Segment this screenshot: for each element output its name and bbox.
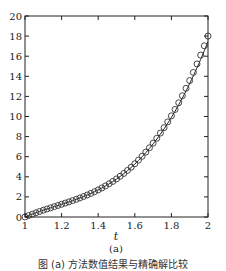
chart: 11.21.41.61.8202468101214161820 t (a) bbox=[0, 0, 226, 256]
x-tick-label: 1.8 bbox=[163, 220, 179, 231]
y-tick-label: 14 bbox=[9, 71, 22, 82]
x-tick-label: 1.2 bbox=[54, 220, 70, 231]
x-tick-label: 2 bbox=[205, 220, 211, 231]
y-tick-label: 18 bbox=[9, 31, 22, 42]
y-tick-label: 12 bbox=[9, 91, 22, 102]
y-tick-label: 8 bbox=[16, 131, 22, 142]
figure-caption: 图 (a) 方法数值结果与精确解比较 bbox=[0, 256, 226, 271]
y-tick-label: 6 bbox=[16, 151, 22, 162]
y-tick-label: 10 bbox=[9, 111, 22, 122]
x-tick-label: 1.4 bbox=[90, 220, 106, 231]
numerical-solution-marker bbox=[157, 130, 163, 136]
subfigure-label: (a) bbox=[109, 243, 123, 254]
y-tick-label: 16 bbox=[9, 51, 22, 62]
x-tick-label: 1 bbox=[22, 220, 28, 231]
axes bbox=[25, 16, 208, 217]
axes-frame bbox=[25, 16, 208, 217]
y-tick-label: 20 bbox=[9, 11, 22, 22]
numerical-solution-marker bbox=[161, 125, 167, 131]
y-tick-label: 4 bbox=[16, 171, 22, 182]
exact-solution-line bbox=[25, 42, 208, 217]
numerical-solution-marker bbox=[190, 69, 196, 75]
ticks: 11.21.41.61.8202468101214161820 bbox=[9, 11, 211, 232]
y-tick-label: 0 bbox=[16, 212, 22, 223]
y-tick-label: 2 bbox=[16, 191, 22, 202]
plot-area bbox=[22, 33, 211, 220]
x-tick-label: 1.6 bbox=[127, 220, 143, 231]
x-axis-label: t bbox=[114, 230, 119, 243]
